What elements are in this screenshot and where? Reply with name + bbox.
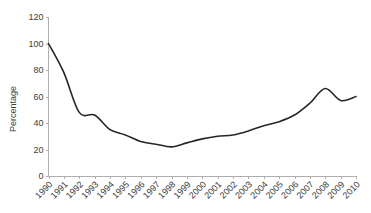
x-axis-tick-labels: 1990199119921993199419951996199719981999…: [33, 179, 362, 200]
x-axis-tick-label: 2010: [341, 179, 362, 200]
chart-canvas: Percentage 020406080100120 1990199119921…: [0, 0, 371, 213]
axis-tick-marks: [46, 18, 357, 180]
y-axis-title-group: Percentage: [8, 86, 18, 132]
y-axis-tick-label: 20: [33, 145, 43, 155]
y-axis-tick-label: 120: [28, 12, 43, 22]
line-chart: Percentage 020406080100120 1990199119921…: [0, 0, 371, 213]
y-axis-tick-label: 40: [33, 118, 43, 128]
series-line-percentage: [49, 44, 357, 147]
y-axis-tick-label: 0: [38, 171, 43, 181]
y-axis-tick-label: 60: [33, 92, 43, 102]
y-axis-tick-labels: 020406080100120: [28, 12, 43, 181]
y-axis-tick-label: 100: [28, 39, 43, 49]
y-axis-tick-label: 80: [33, 65, 43, 75]
y-axis-title: Percentage: [8, 86, 18, 132]
